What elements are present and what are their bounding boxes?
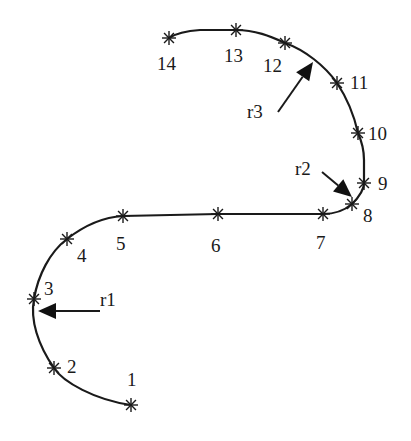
radius-label: r3 [247,101,263,122]
radius-arrow-line [322,172,338,185]
waypoint-label: 2 [67,356,77,377]
waypoint-star-icon [124,398,138,412]
waypoint-label: 6 [211,235,221,256]
waypoint-star-icon [116,209,130,223]
waypoint-star-icon [211,207,225,221]
radius-label: r2 [295,158,311,179]
waypoint-star-icon [278,36,292,50]
waypoint-labels: 1234567891011121314 [44,45,388,390]
waypoint-label: 11 [350,72,368,93]
waypoint-label: 10 [368,123,387,144]
trajectory-path [33,30,364,405]
radius-arrow-line [278,77,303,112]
waypoint-label: 14 [157,53,177,74]
waypoint-label: 3 [44,278,54,299]
waypoint-star-icon [316,207,330,221]
arrowhead-icon [38,303,56,319]
waypoint-star-icon [345,197,359,211]
waypoint-star-icon [229,23,243,37]
waypoint-label: 1 [127,369,137,390]
waypoint-label: 12 [263,55,282,76]
waypoint-label: 9 [378,173,388,194]
waypoint-label: 8 [363,205,373,226]
waypoint-star-icon [27,292,41,306]
diagram-svg: 1234567891011121314 r1r2r3 [0,0,411,441]
waypoint-markers [27,23,371,412]
waypoint-star-icon [357,176,371,190]
waypoint-label: 13 [224,45,243,66]
radius-annotations: r1r2r3 [38,62,352,319]
trajectory-diagram: 1234567891011121314 r1r2r3 [0,0,411,441]
waypoint-label: 7 [316,232,326,253]
arrowhead-icon [296,62,313,81]
waypoint-star-icon [330,76,344,90]
arrowhead-icon [333,179,352,197]
waypoint-star-icon [47,361,61,375]
waypoint-label: 5 [116,233,126,254]
waypoint-star-icon [351,126,365,140]
radius-label: r1 [100,289,116,310]
waypoint-label: 4 [77,245,87,266]
waypoint-star-icon [162,31,176,45]
waypoint-star-icon [60,232,74,246]
